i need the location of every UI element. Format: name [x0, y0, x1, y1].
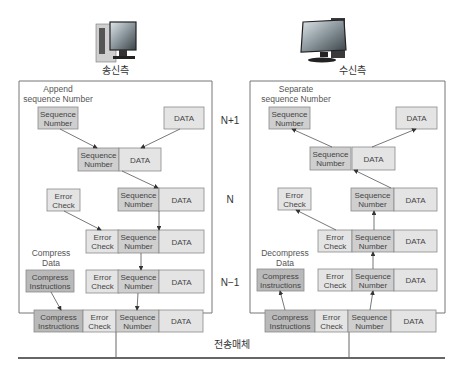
box-label: Sequence: [271, 110, 308, 119]
box-label: Sequence: [120, 191, 157, 200]
box-label: DATA: [406, 114, 427, 123]
receiver-data-box: DATA: [394, 230, 437, 252]
box-label: DATA: [174, 114, 195, 123]
box-label: Error: [286, 191, 304, 200]
sender-sequence-number-box: SequenceNumber: [38, 107, 78, 129]
level-label-n-plus-1: N+1: [221, 115, 240, 126]
protocol-layer-diagram: 송신측 수신측 Append sequence Number Separate …: [0, 0, 460, 380]
sender-data-box: DATA: [159, 230, 204, 253]
box-label: Check: [324, 242, 348, 251]
receiver-flow-arrow: [280, 291, 285, 310]
receiver-sequence-number-box: SequenceNumber: [348, 310, 391, 332]
box-label: Error: [326, 233, 344, 242]
box-label: Number: [123, 322, 152, 331]
receiver-sequence-number-box: SequenceNumber: [352, 269, 394, 291]
box-label: Instructions: [260, 281, 301, 290]
box-label: Check: [91, 282, 115, 291]
receiver-flow-arrow: [292, 129, 332, 147]
box-label: DATA: [405, 196, 426, 205]
box-label: Sequence: [80, 151, 117, 160]
box-label: Number: [355, 322, 384, 331]
svg-text:Append: Append: [43, 84, 73, 94]
sender-sequence-number-box: SequenceNumber: [118, 188, 159, 211]
box-label: Number: [124, 282, 153, 291]
box-label: DATA: [363, 155, 384, 164]
svg-text:Decompress: Decompress: [261, 248, 309, 258]
sender-error-check-box: ErrorCheck: [86, 270, 119, 293]
box-label: Instructions: [38, 322, 79, 331]
box-label: Number: [275, 119, 304, 128]
box-label: DATA: [130, 156, 151, 165]
box-label: Error: [55, 192, 73, 201]
sender-flow-arrow: [141, 129, 180, 148]
box-label: Compress: [40, 313, 76, 322]
box-label: DATA: [405, 237, 426, 246]
sender-error-check-box: ErrorCheck: [86, 230, 119, 253]
svg-text:Data: Data: [276, 258, 294, 268]
box-label: Check: [320, 322, 344, 331]
sender-data-box: DATA: [119, 148, 161, 171]
receiver-data-box: DATA: [394, 269, 437, 291]
box-label: Sequence: [120, 273, 157, 282]
sender-title: 송신측: [102, 65, 129, 76]
box-label: Error: [94, 233, 112, 242]
receiver-error-check-box: ErrorCheck: [278, 188, 311, 210]
box-label: Error: [323, 313, 341, 322]
box-label: Error: [94, 273, 112, 282]
box-label: Number: [124, 242, 153, 251]
receiver-flow-arrow: [372, 129, 416, 147]
svg-text:Data: Data: [42, 258, 60, 268]
sender-flow-arrow: [60, 129, 97, 148]
receiver-sequence-number-box: SequenceNumber: [351, 188, 394, 211]
box-label: Number: [316, 159, 345, 168]
receiver-sequence-number-box: SequenceNumber: [352, 230, 394, 252]
box-label: Compress: [32, 273, 68, 282]
sender-sequence-number-box: SequenceNumber: [118, 270, 159, 293]
sender-flow-arrow: [64, 211, 101, 230]
level-label-n: N: [226, 194, 233, 205]
sender-flow-arrow: [51, 292, 61, 310]
receiver-compress-instructions-box: CompressInstructions: [257, 269, 304, 291]
receiver-error-check-box: ErrorCheck: [318, 230, 352, 252]
box-label: Sequence: [351, 313, 388, 322]
svg-text:Compress: Compress: [32, 248, 71, 258]
box-label: DATA: [171, 196, 192, 205]
receiver-data-box: DATA: [352, 147, 395, 170]
sender-error-check-box: ErrorCheck: [47, 189, 80, 211]
receiver-flow-arrow: [296, 210, 336, 230]
sender-compress-instructions-box: CompressInstructions: [34, 310, 83, 332]
sender-data-box: DATA: [159, 270, 204, 293]
box-label: Number: [84, 160, 113, 169]
box-label: Sequence: [355, 233, 392, 242]
box-label: Check: [52, 201, 76, 210]
sender-sequence-number-box: SequenceNumber: [78, 148, 119, 171]
receiver-error-check-box: ErrorCheck: [318, 269, 352, 291]
box-label: Sequence: [120, 233, 157, 242]
receiver-error-check-box: ErrorCheck: [315, 310, 348, 332]
box-label: Check: [88, 322, 112, 331]
receiver-data-box: DATA: [391, 310, 436, 332]
sender-compress-instructions-box: CompressInstructions: [26, 270, 74, 292]
receiver-computer-icon: [301, 18, 346, 63]
box-label: Number: [359, 281, 388, 290]
box-label: Number: [358, 200, 387, 209]
sender-data-box: DATA: [164, 107, 204, 129]
box-label: Sequence: [312, 150, 349, 159]
receiver-sequence-number-box: SequenceNumber: [269, 107, 310, 129]
box-label: DATA: [171, 238, 192, 247]
box-label: DATA: [405, 276, 426, 285]
box-label: Check: [283, 200, 307, 209]
sender-error-check-box: ErrorCheck: [83, 310, 116, 332]
box-label: DATA: [171, 278, 192, 287]
receiver-separate-caption: Separate sequence Number: [261, 84, 331, 104]
medium-label: 전송매체: [214, 339, 250, 350]
sender-compress-caption: Compress Data: [32, 248, 71, 268]
box-label: Instructions: [30, 282, 71, 291]
box-label: Error: [91, 313, 109, 322]
receiver-decompress-caption: Decompress Data: [261, 248, 309, 268]
box-label: Check: [91, 242, 115, 251]
box-label: Sequence: [119, 313, 156, 322]
box-label: Number: [359, 242, 388, 251]
level-label-n-minus-1: N−1: [221, 277, 240, 288]
box-label: Sequence: [354, 191, 391, 200]
